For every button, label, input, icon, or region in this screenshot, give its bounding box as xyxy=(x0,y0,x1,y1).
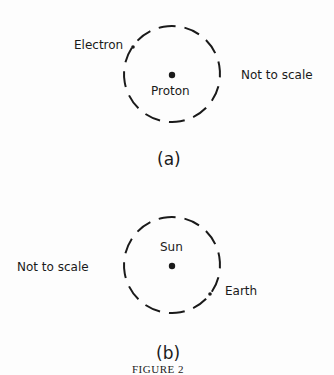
figure-2: Electron Proton Not to scale (a) Sun Ear… xyxy=(0,0,334,375)
panel-a: Electron Proton Not to scale (a) xyxy=(74,18,313,169)
panel-label: (a) xyxy=(157,149,181,169)
scale-note: Not to scale xyxy=(241,68,313,82)
sun-dot xyxy=(169,263,175,269)
proton-dot xyxy=(169,72,175,78)
panel-b: Sun Earth Not to scale (b) xyxy=(17,209,257,363)
proton-label: Proton xyxy=(151,84,190,98)
sun-label: Sun xyxy=(160,240,183,254)
panel-label: (b) xyxy=(156,343,180,363)
earth-dot xyxy=(208,292,212,296)
figure-caption: FIGURE 2 xyxy=(132,363,184,375)
scale-note: Not to scale xyxy=(17,260,89,274)
electron-label: Electron xyxy=(74,38,123,52)
electron-dot xyxy=(131,45,135,49)
earth-label: Earth xyxy=(225,284,257,298)
